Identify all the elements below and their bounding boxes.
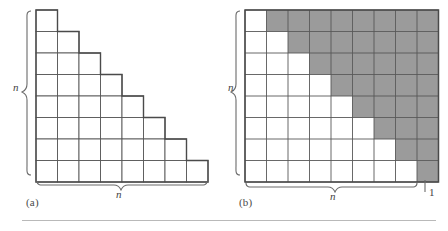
panel-b-cell-empty <box>288 53 310 75</box>
panel-b-cell-shaded <box>396 10 418 32</box>
panel-b-cell-shaded <box>353 32 375 54</box>
panel-b-cell-empty <box>331 139 353 161</box>
panel-b-cell-shaded <box>396 32 418 54</box>
panel-b-cell-shaded <box>331 75 353 97</box>
panel-a-cell <box>79 53 101 75</box>
panel-a-cell <box>165 139 187 161</box>
panel-b-cell-shaded <box>417 32 439 54</box>
panel-b-cell-shaded <box>417 139 439 161</box>
panel-b-cell-empty <box>267 161 289 183</box>
panel-a-cell <box>79 161 101 183</box>
panel-b-cell-empty <box>245 53 267 75</box>
panel-b-cell-empty <box>353 139 375 161</box>
panel-b-cell-empty <box>331 161 353 183</box>
panel-a-cell <box>144 118 166 140</box>
panel-a-cell <box>36 32 58 54</box>
panel-b-cell-empty <box>310 96 332 118</box>
panel-a-cell <box>36 161 58 183</box>
panel-a-cell <box>101 75 123 97</box>
panel-b-cell-shaded <box>374 53 396 75</box>
panel-b-cell-shaded <box>288 10 310 32</box>
panel-b-cell-empty <box>310 161 332 183</box>
panel-b-cell-shaded <box>374 10 396 32</box>
panel-b-cell-empty <box>245 96 267 118</box>
panel-b-cell-empty <box>353 161 375 183</box>
panel-b-cell-empty <box>267 32 289 54</box>
panel-b-cell-shaded <box>353 75 375 97</box>
panel-b-cell-shaded <box>353 10 375 32</box>
panel-b-cell-empty <box>245 75 267 97</box>
panel-b-cell-shaded <box>396 118 418 140</box>
panel-b-cell-empty <box>245 10 267 32</box>
panel-b-cell-shaded <box>396 139 418 161</box>
panel-b-cell-empty <box>374 161 396 183</box>
panel-b-cell-empty <box>288 75 310 97</box>
panel-b-cell-empty <box>267 139 289 161</box>
panel-b-cell-empty <box>288 96 310 118</box>
panel-b-cell-shaded <box>417 10 439 32</box>
panel-a-cell <box>122 118 144 140</box>
panel-b-cell-shaded <box>353 53 375 75</box>
panel-b-cell-shaded <box>396 75 418 97</box>
panel-a-cell <box>36 53 58 75</box>
panel-a-staircase-grid <box>36 10 208 182</box>
panel-b-cell-shaded <box>331 53 353 75</box>
panel-a-cell <box>58 75 80 97</box>
panel-a-cell <box>79 96 101 118</box>
panel-b-cell-shaded <box>417 53 439 75</box>
panel-a-cell <box>79 75 101 97</box>
panel-a-cell <box>79 118 101 140</box>
panel-a-horizontal-dimension-label: n <box>116 188 122 200</box>
panel-b-cell-shaded <box>267 10 289 32</box>
panel-a-cell <box>101 118 123 140</box>
panel-b-cell-empty <box>245 139 267 161</box>
panel-a-cell <box>58 53 80 75</box>
panel-a-cell <box>36 96 58 118</box>
panel-b-cell-shaded <box>417 96 439 118</box>
panel-b-cell-shaded <box>374 96 396 118</box>
panel-b-cell-shaded <box>374 118 396 140</box>
panel-b-cell-empty <box>267 53 289 75</box>
panel-b-vertical-dimension-label: n <box>228 81 234 93</box>
panel-b-cell-shaded <box>417 118 439 140</box>
panel-a-cell <box>58 118 80 140</box>
panel-a-vertical-dimension-label: n <box>13 81 19 93</box>
panel-a-cell <box>79 139 101 161</box>
panel-b-cell-shaded <box>353 96 375 118</box>
footer-divider <box>22 220 436 221</box>
panel-b-cell-empty <box>288 139 310 161</box>
panel-b-cell-empty <box>310 118 332 140</box>
panel-b-cell-shaded <box>396 96 418 118</box>
panel-b-cell-empty <box>331 118 353 140</box>
panel-a-cell <box>58 161 80 183</box>
panel-b-cell-empty <box>288 118 310 140</box>
panel-b-cell-empty <box>267 75 289 97</box>
panel-a-cell <box>58 139 80 161</box>
panel-a-cell <box>144 139 166 161</box>
panel-a-cell <box>144 161 166 183</box>
panel-a-cell <box>122 161 144 183</box>
panel-b-cell-shaded <box>374 32 396 54</box>
panel-a-cell <box>101 139 123 161</box>
panel-a-cell <box>165 161 187 183</box>
panel-b-cell-shaded <box>331 32 353 54</box>
panel-a-cell <box>122 139 144 161</box>
panel-b-cell-empty <box>396 161 418 183</box>
panel-b-cell-empty <box>245 161 267 183</box>
panel-b-cell-empty <box>310 75 332 97</box>
panel-b-cell-empty <box>331 96 353 118</box>
panel-a-cell <box>101 96 123 118</box>
panel-b-caption: (b) <box>239 196 252 208</box>
panel-b-cell-empty <box>267 96 289 118</box>
panel-a-cell <box>187 161 209 183</box>
panel-b-vertical-brace <box>231 11 240 175</box>
panel-b-cell-shaded <box>417 75 439 97</box>
panel-b-cell-shaded <box>331 10 353 32</box>
panel-a-cell <box>36 10 58 32</box>
panel-b-cell-shaded <box>310 32 332 54</box>
panel-b-cell-empty <box>245 118 267 140</box>
panel-b-cell-empty <box>374 139 396 161</box>
panel-b-cell-shaded <box>288 32 310 54</box>
panel-b-cell-empty <box>288 161 310 183</box>
panel-a-vertical-brace <box>22 11 31 175</box>
